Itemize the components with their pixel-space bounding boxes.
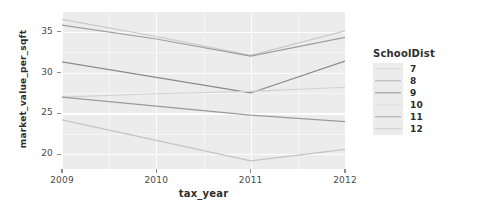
legend-item-10[interactable]: 10	[373, 99, 483, 111]
series-line	[62, 97, 345, 122]
x-tick-label: 2012	[333, 175, 357, 185]
y-tick-mark	[57, 154, 61, 155]
y-tick-mark	[57, 72, 61, 73]
x-tick-mark	[250, 169, 251, 173]
legend-title: SchoolDist	[373, 48, 483, 59]
y-tick-label: 30	[41, 67, 53, 77]
y-axis-title: market_value_per_sqft	[18, 19, 28, 159]
series-line	[62, 61, 345, 93]
legend: SchoolDist 789101112	[373, 48, 483, 135]
legend-item-12[interactable]: 12	[373, 123, 483, 135]
x-tick-label: 2009	[50, 175, 74, 185]
legend-label: 8	[410, 76, 416, 86]
legend-item-9[interactable]: 9	[373, 87, 483, 99]
x-tick-mark	[156, 169, 157, 173]
legend-rows: 789101112	[373, 63, 483, 135]
series-line	[62, 25, 345, 56]
y-tick-label: 35	[41, 26, 53, 36]
legend-swatch-icon	[373, 75, 403, 87]
y-tick-mark	[57, 31, 61, 32]
legend-swatch-icon	[373, 63, 403, 75]
legend-label: 10	[410, 100, 423, 110]
legend-swatch-line	[375, 104, 401, 105]
series-line	[62, 120, 345, 161]
legend-label: 9	[410, 88, 416, 98]
legend-swatch-line	[375, 128, 401, 129]
series-line	[62, 19, 345, 55]
x-axis-title: tax_year	[62, 188, 345, 199]
legend-swatch-line	[375, 68, 401, 69]
legend-label: 12	[410, 124, 423, 134]
series-lines	[62, 12, 345, 169]
x-tick-label: 2011	[239, 175, 263, 185]
x-tick-label: 2010	[144, 175, 168, 185]
plot-panel	[62, 12, 345, 169]
legend-item-7[interactable]: 7	[373, 63, 483, 75]
legend-swatch-icon	[373, 99, 403, 111]
legend-swatch-icon	[373, 87, 403, 99]
legend-label: 7	[410, 64, 416, 74]
legend-label: 11	[410, 112, 423, 122]
legend-swatch-icon	[373, 111, 403, 123]
y-tick-label: 20	[41, 148, 53, 158]
x-tick-mark	[61, 169, 62, 173]
y-tick-label: 25	[41, 107, 53, 117]
y-tick-mark	[57, 113, 61, 114]
series-line	[62, 87, 345, 97]
legend-swatch-icon	[373, 123, 403, 135]
legend-swatch-line	[375, 116, 401, 117]
chart-root: 20253035 market_value_per_sqft 200920102…	[0, 0, 487, 203]
x-tick-mark	[344, 169, 345, 173]
legend-item-8[interactable]: 8	[373, 75, 483, 87]
legend-item-11[interactable]: 11	[373, 111, 483, 123]
legend-swatch-line	[375, 80, 401, 81]
legend-swatch-line	[375, 92, 401, 93]
